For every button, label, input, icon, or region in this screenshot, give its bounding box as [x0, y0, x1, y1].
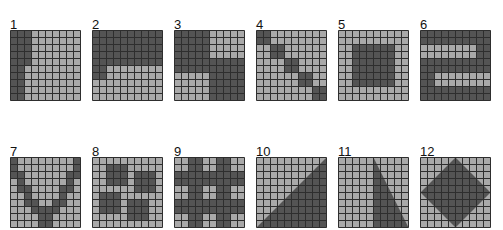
grid-10x10 — [338, 30, 409, 101]
shaded-cells — [11, 59, 32, 66]
shaded-cells — [210, 87, 245, 94]
grid-10x10 — [256, 157, 327, 228]
shaded-cells — [135, 172, 156, 179]
grid-10x10 — [420, 30, 491, 101]
shaded-cells — [100, 200, 121, 207]
shaded-cells — [210, 80, 245, 87]
shaded-cells — [128, 200, 149, 207]
shaded-cells — [11, 38, 32, 45]
shaded-cells — [128, 207, 149, 214]
grid-10x10 — [92, 157, 163, 228]
shaded-cells — [74, 165, 81, 172]
shaded-cells — [135, 179, 156, 186]
shaded-cells — [175, 45, 210, 52]
shaded-cells — [60, 193, 67, 200]
shaded-cells — [107, 179, 128, 186]
grid-10x10 — [338, 157, 409, 228]
shaded-cells — [11, 158, 18, 165]
grid-10x10 — [174, 30, 245, 101]
grid-10x10 — [420, 157, 491, 228]
shaded-cells — [128, 214, 149, 221]
grid-10x10 — [92, 30, 163, 101]
shaded-cells — [135, 186, 156, 193]
shaded-cells — [25, 193, 32, 200]
shaded-cells — [11, 165, 18, 172]
shaded-cells — [175, 52, 210, 59]
grid-10x10 — [174, 157, 245, 228]
grid-10x10 — [10, 157, 81, 228]
shaded-cells — [18, 179, 25, 186]
shaded-cells — [11, 45, 32, 52]
shaded-cells — [107, 165, 128, 172]
shaded-cells — [107, 172, 128, 179]
shaded-cells — [67, 179, 74, 186]
shaded-cells — [11, 52, 32, 59]
shaded-cells — [175, 31, 210, 38]
shaded-cells — [11, 31, 32, 38]
shaded-cells — [74, 158, 81, 165]
grid-10x10 — [256, 30, 327, 101]
grid-10x10 — [10, 30, 81, 101]
shaded-cells — [100, 207, 121, 214]
shaded-cells — [210, 94, 245, 101]
shaded-cells — [210, 73, 245, 80]
shaded-cells — [175, 38, 210, 45]
shaded-cells — [100, 193, 121, 200]
